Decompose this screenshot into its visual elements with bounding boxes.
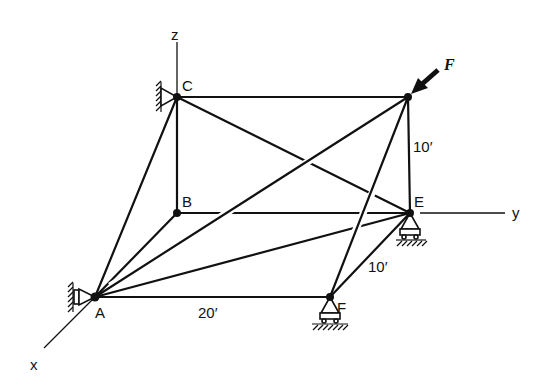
joint-F xyxy=(326,293,334,301)
x-axis xyxy=(44,297,95,348)
force-arrow-shaft xyxy=(421,70,438,85)
dimension-A-F: 20′ xyxy=(198,304,218,321)
member-A-D xyxy=(95,97,408,297)
load-arrow: F xyxy=(411,56,455,94)
support-E xyxy=(396,213,427,246)
dimension-D-E: 10′ xyxy=(413,138,433,155)
y-axis-label: y xyxy=(512,204,520,221)
space-truss-diagram: z y x xyxy=(0,0,547,392)
joint-C xyxy=(173,93,181,101)
label-F: F xyxy=(337,299,346,316)
member-D-E xyxy=(408,97,410,213)
truss-members xyxy=(95,97,410,297)
label-E: E xyxy=(414,193,424,210)
joint-B xyxy=(173,209,181,217)
joint-E xyxy=(406,209,414,217)
dimension-E-F: 10′ xyxy=(368,258,388,275)
joint-A xyxy=(91,293,100,302)
member-C-E xyxy=(177,97,410,213)
member-A-E xyxy=(95,213,410,297)
label-B: B xyxy=(182,193,192,210)
z-axis-label: z xyxy=(171,26,179,43)
x-axis-label: x xyxy=(30,356,38,373)
joint-D xyxy=(404,93,412,101)
force-label: F xyxy=(443,56,455,73)
label-C: C xyxy=(182,77,193,94)
label-A: A xyxy=(95,304,105,321)
